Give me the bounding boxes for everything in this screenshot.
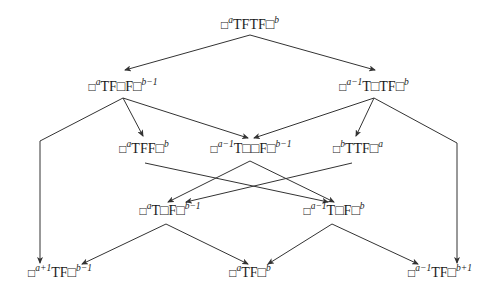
edge-n3-to-n7 [145,163,328,202]
exponent: a [236,263,241,273]
edge-n2-to-n5 [356,98,374,136]
exponent: b−1 [275,139,291,149]
exponent: a [96,77,101,87]
node-n3: □aTFF□b [119,141,168,158]
exponent: b [266,263,271,273]
word: T□□F□ [234,141,276,156]
exponent: b−1 [76,263,92,273]
word: TTF□ [345,141,378,156]
edge-n7-to-n10 [332,224,418,264]
word: TF□F□ [101,79,142,94]
edge-n2-to-n10 [374,98,457,263]
word: TF□ [241,265,266,280]
word: T□TF□ [362,79,404,94]
exponent: a−1 [346,77,362,87]
node-n9: □aTF□b [229,265,271,282]
exponent: a+1 [35,263,51,273]
word: TFF□ [131,141,164,156]
node-n1: □aTF□F□b−1 [89,79,158,96]
node-n6: □aT□F□b−1 [139,203,200,220]
exponent: a [147,201,152,211]
edge-n0-to-n1 [125,35,250,70]
exponent: a [127,139,132,149]
exponent: b [360,201,365,211]
exponent: a−1 [311,201,327,211]
word: T□F□ [151,203,184,218]
exponent: a [378,139,383,149]
edge-n1-to-n8 [40,98,123,263]
exponent: b+1 [456,263,472,273]
exponent: b−1 [185,201,201,211]
edge-n7-to-n9 [268,224,332,264]
exponent: b−1 [142,77,158,87]
word: TFTF□ [233,17,274,32]
exponent: b [340,139,345,149]
exponent: a [228,15,233,25]
edge-n0-to-n2 [250,35,375,70]
edge-n2-to-n4 [254,98,374,138]
node-n7: □a−1T□F□b [303,203,364,220]
edge-n5-to-n6 [186,163,352,202]
exponent: a−1 [218,139,234,149]
node-n10: □a−1TF□b+1 [408,265,472,282]
word: T□F□ [327,203,360,218]
edge-n4-to-n7 [250,161,334,202]
node-n0: □aTFTF□b [221,17,279,34]
edge-n1-to-n4 [123,98,248,138]
exponent: b [404,77,409,87]
edge-n6-to-n8 [82,224,166,264]
exponent: a−1 [415,263,431,273]
edge-n4-to-n6 [168,161,250,202]
exponent: b [164,139,169,149]
exponent: b [274,15,279,25]
node-n2: □a−1T□TF□b [339,79,409,96]
node-n8: □a+1TF□b−1 [28,265,92,282]
edge-n6-to-n9 [166,224,248,264]
word: TF□ [431,265,456,280]
node-n5: □bTTF□a [333,141,383,158]
word: TF□ [51,265,76,280]
node-n4: □a−1T□□F□b−1 [211,141,292,158]
